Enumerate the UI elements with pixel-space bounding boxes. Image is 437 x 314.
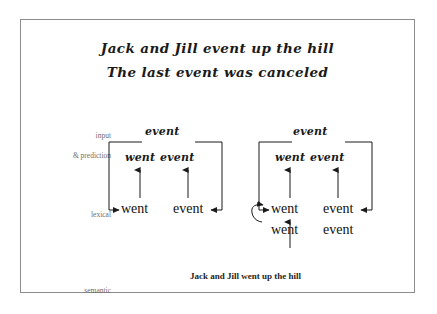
right-block-prediction-token-went: went: [275, 151, 305, 164]
right-block-lexical-row2-went: went: [271, 222, 298, 238]
left-block-prediction-token-event: event: [160, 151, 194, 164]
figure-title-line-2: The last event was canceled: [21, 64, 414, 80]
right-block-lexical-row1-event: event: [323, 201, 353, 217]
left-block-prediction-token-went: went: [125, 151, 155, 164]
right-block-prediction-token-event: event: [310, 151, 344, 164]
right-block-input-token: event: [293, 125, 327, 138]
figure-frame: Jack and Jill event up the hill The last…: [20, 19, 415, 293]
row-label-prediction: & prediction: [31, 151, 111, 160]
figure-canvas: Jack and Jill event up the hill The last…: [0, 0, 437, 314]
row-label-semantic: semantic: [49, 286, 111, 295]
row-label-input: input: [49, 131, 111, 140]
row-label-lexical: lexical: [49, 210, 111, 219]
right-block-lexical-row2-event: event: [323, 222, 353, 238]
left-block-lexical-went: went: [121, 201, 148, 217]
figure-title-line-1: Jack and Jill event up the hill: [21, 40, 414, 56]
semantic-caption: Jack and Jill went up the hill: [190, 271, 301, 281]
left-block-lexical-event: event: [173, 201, 203, 217]
right-block-lexical-row1-went: went: [271, 201, 298, 217]
left-block-input-token: event: [145, 125, 179, 138]
